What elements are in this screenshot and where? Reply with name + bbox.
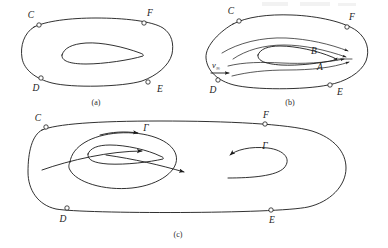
panel-c-label-E: E xyxy=(268,215,275,225)
panel-b-label-B: B xyxy=(311,46,317,56)
panel-b-contour xyxy=(206,15,368,89)
panel-a-node-D xyxy=(39,76,43,80)
figure-container: C F D E (a) C F D E B A xyxy=(0,0,388,248)
panel-b-caption: (b) xyxy=(285,98,295,107)
panel-c-node-E xyxy=(269,208,273,212)
panel-b-streamline-upper-outer xyxy=(222,38,348,53)
panel-b: C F D E B A v∞ (b) xyxy=(206,6,368,107)
panel-c-contour xyxy=(28,121,346,213)
aerodynamics-circulation-figure: C F D E (a) C F D E B A xyxy=(0,0,388,248)
panel-c-node-F xyxy=(263,122,267,126)
panel-b-label-C: C xyxy=(228,6,235,16)
panel-c-starting-vortex xyxy=(228,147,287,178)
panel-b-node-C xyxy=(237,19,241,23)
panel-b-label-velocity: v∞ xyxy=(212,60,220,71)
velocity-subscript: ∞ xyxy=(216,65,220,71)
panel-c-node-C xyxy=(44,125,48,129)
panel-a-contour xyxy=(22,18,173,86)
panel-a-label-E: E xyxy=(156,84,163,94)
panel-a-airfoil xyxy=(62,43,143,64)
panel-b-label-A: A xyxy=(316,62,323,72)
panel-c-label-F: F xyxy=(262,110,269,120)
panel-b-node-D xyxy=(216,78,220,82)
panel-c-airfoil xyxy=(88,145,163,164)
panel-b-node-F xyxy=(345,25,349,29)
panel-c-node-D xyxy=(65,206,69,210)
panel-b-label-E: E xyxy=(336,87,343,97)
panel-b-streamline-lower-outer xyxy=(232,62,349,76)
panel-a-label-F: F xyxy=(146,8,153,18)
panel-c-label-gamma-starting: Γ xyxy=(261,141,268,151)
panel-a-caption: (a) xyxy=(92,98,101,107)
panel-a-label-D: D xyxy=(32,83,40,93)
panel-c-caption: (c) xyxy=(174,230,183,239)
panel-b-label-D: D xyxy=(209,85,217,95)
panel-c-circulation-loop xyxy=(69,133,177,189)
panel-a-label-C: C xyxy=(28,10,35,20)
panel-c-label-gamma-bound: Γ xyxy=(142,123,149,133)
panel-a-node-E xyxy=(146,80,150,84)
panel-a-node-F xyxy=(142,21,146,25)
panel-c: C F D E Γ Γ (c) xyxy=(28,110,346,239)
panel-a-node-C xyxy=(37,23,41,27)
panel-b-streamline-upper-inner xyxy=(233,45,346,59)
panel-c-label-C: C xyxy=(35,113,42,123)
panel-b-label-F: F xyxy=(348,12,355,22)
panel-c-label-D: D xyxy=(59,214,67,224)
panel-b-node-E xyxy=(328,83,332,87)
scan-artifact-top xyxy=(262,2,356,6)
panel-a: C F D E (a) xyxy=(22,8,173,107)
